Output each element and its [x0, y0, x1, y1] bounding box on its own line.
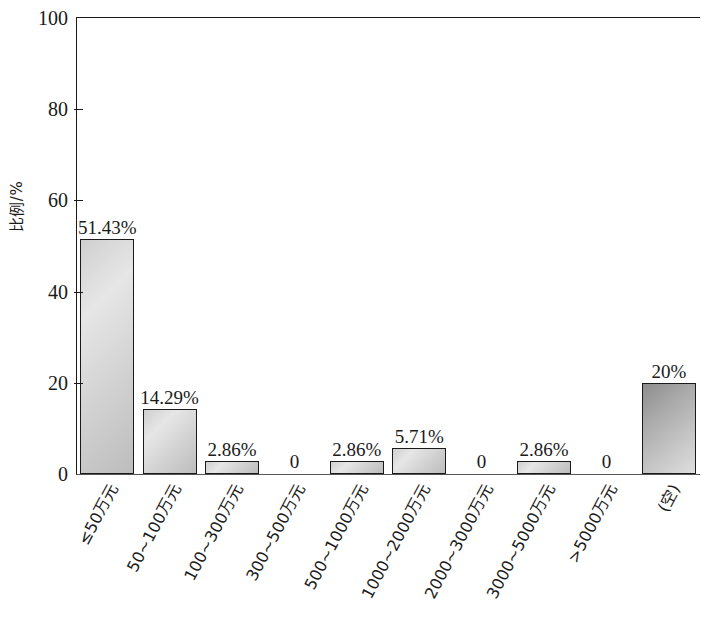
x-axis-tick-labels: ≤50万元50~100万元100~300万元300~500万元500~1000万…	[76, 478, 700, 628]
x-tick-label-slot: >5000万元	[575, 478, 637, 628]
bar-value-label: 14.29%	[140, 388, 199, 407]
bar-value-label: 0	[602, 452, 612, 471]
y-tick-label: 40	[24, 282, 68, 302]
bar-value-label: 20%	[651, 362, 686, 381]
y-tick-mark	[74, 109, 83, 110]
bar-value-label: 0	[290, 452, 300, 471]
bar-value-label: 51.43%	[78, 218, 137, 237]
x-tick-label: ≤50万元	[76, 482, 121, 548]
x-tick-label: (空)	[655, 482, 682, 515]
bar: 20%	[642, 383, 696, 474]
bar: 14.29%	[143, 409, 197, 474]
x-tick-label-slot: (空)	[638, 478, 700, 628]
y-tick-mark	[74, 383, 83, 384]
plot-area: 51.43%14.29%2.86%02.86%5.71%02.86%020%	[76, 18, 700, 474]
bar-value-label: 0	[477, 452, 487, 471]
y-tick-label: 100	[24, 8, 68, 28]
y-tick-label: 80	[24, 99, 68, 119]
bar: 2.86%	[330, 461, 384, 474]
bar-chart: 比例/% 020406080100 51.43%14.29%2.86%02.86…	[0, 0, 708, 631]
y-tick-label: 60	[24, 190, 68, 210]
bar: 2.86%	[205, 461, 259, 474]
y-tick-label: 20	[24, 373, 68, 393]
bar-value-label: 5.71%	[395, 427, 444, 446]
x-axis-line	[76, 474, 700, 475]
bar-value-label: 2.86%	[519, 440, 568, 459]
bar: 51.43%	[80, 239, 134, 474]
y-tick-label: 0	[24, 464, 68, 484]
bar: 5.71%	[392, 448, 446, 474]
y-tick-mark	[74, 292, 83, 293]
bar-value-label: 2.86%	[332, 440, 381, 459]
y-tick-mark	[74, 200, 83, 201]
y-axis-tick-labels: 020406080100	[0, 0, 68, 631]
bar-value-label: 2.86%	[207, 440, 256, 459]
bar: 2.86%	[517, 461, 571, 474]
